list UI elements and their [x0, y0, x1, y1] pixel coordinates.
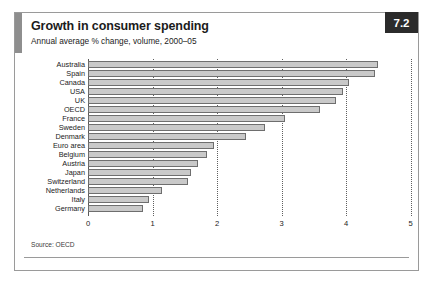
footer-divider	[24, 257, 409, 258]
bar	[88, 106, 320, 113]
bar	[88, 133, 246, 140]
bar	[88, 169, 191, 176]
category-label: France	[62, 114, 85, 123]
category-label: USA	[70, 87, 85, 96]
category-label: Spain	[66, 69, 85, 78]
title-accent-bar	[15, 13, 22, 53]
x-tick-label: 3	[279, 219, 283, 228]
category-label: Netherlands	[46, 186, 85, 195]
bar	[88, 97, 336, 104]
bar	[88, 88, 343, 95]
x-tick-label: 1	[150, 219, 154, 228]
category-label: Austria	[62, 159, 85, 168]
page-title: Growth in consumer spending	[31, 19, 209, 33]
category-label: Canada	[59, 78, 85, 87]
category-label: Sweden	[59, 123, 85, 132]
chart-header: Growth in consumer spending Annual avera…	[15, 13, 418, 59]
bar	[88, 205, 143, 212]
x-tick-label: 0	[86, 219, 90, 228]
category-label: Japan	[65, 168, 85, 177]
bar	[88, 79, 349, 86]
category-axis-labels: AustraliaSpainCanadaUSAUKOECDFranceSwede…	[15, 59, 88, 216]
category-label: Euro area	[53, 141, 85, 150]
bar	[88, 151, 207, 158]
bars-container: 012345	[88, 59, 418, 216]
x-tick-label: 2	[215, 219, 219, 228]
x-tick-label: 5	[408, 219, 412, 228]
bar	[88, 61, 378, 68]
plot-area: AustraliaSpainCanadaUSAUKOECDFranceSwede…	[15, 59, 420, 234]
category-label: Germany	[55, 204, 85, 213]
category-label: Denmark	[55, 132, 85, 141]
chart-figure: Growth in consumer spending Annual avera…	[14, 12, 419, 271]
category-label: Belgium	[59, 150, 85, 159]
source-note: Source: OECD	[31, 241, 75, 248]
bar	[88, 196, 149, 203]
category-label: Australia	[57, 60, 85, 69]
gridline-5	[411, 59, 412, 216]
x-tick-label: 4	[344, 219, 348, 228]
bar	[88, 142, 214, 149]
bar	[88, 160, 198, 167]
category-label: Switzerland	[47, 177, 85, 186]
category-label: OECD	[64, 105, 85, 114]
bar	[88, 124, 265, 131]
category-label: UK	[75, 96, 85, 105]
category-label: Italy	[72, 195, 85, 204]
bar	[88, 178, 188, 185]
bar	[88, 187, 162, 194]
bar	[88, 115, 285, 122]
chart-subtitle: Annual average % change, volume, 2000–05	[31, 36, 197, 46]
bar	[88, 70, 375, 77]
chart-number-badge: 7.2	[385, 12, 418, 33]
